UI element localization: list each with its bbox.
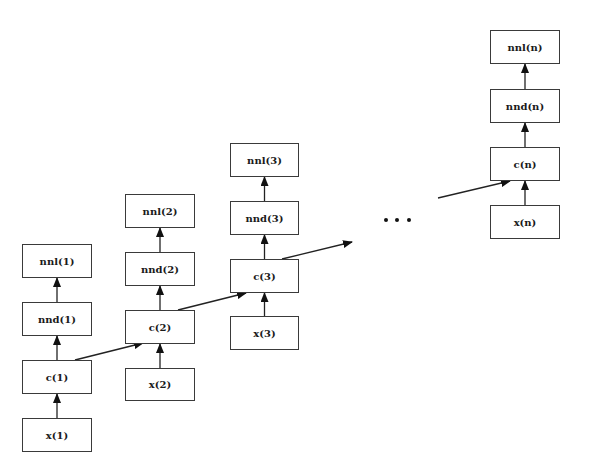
edge-arrow bbox=[282, 242, 352, 259]
node-label: c(n) bbox=[514, 159, 537, 170]
node-nnl-1: nnl(1) bbox=[22, 244, 92, 278]
node-c-3: c(3) bbox=[230, 259, 299, 293]
node-nnl-n: nnl(n) bbox=[490, 30, 560, 64]
node-nnl-2: nnl(2) bbox=[125, 194, 195, 228]
node-label: nnd(3) bbox=[246, 213, 284, 224]
node-c-1: c(1) bbox=[22, 360, 92, 394]
node-label: nnd(n) bbox=[506, 101, 544, 112]
ellipsis-dot bbox=[384, 218, 388, 222]
node-x-1: x(1) bbox=[22, 418, 92, 452]
node-label: nnl(3) bbox=[247, 155, 282, 166]
node-x-3: x(3) bbox=[230, 316, 299, 350]
node-label: c(1) bbox=[46, 372, 69, 383]
edge-arrow bbox=[75, 343, 143, 360]
node-nnd-n: nnd(n) bbox=[490, 89, 560, 123]
vertical-edges bbox=[57, 64, 525, 418]
node-nnl-3: nnl(3) bbox=[230, 143, 299, 177]
node-label: x(n) bbox=[514, 217, 537, 228]
node-nnd-1: nnd(1) bbox=[22, 302, 92, 336]
node-label: c(2) bbox=[149, 322, 172, 333]
node-label: nnl(2) bbox=[143, 206, 178, 217]
node-nnd-2: nnd(2) bbox=[125, 252, 195, 286]
node-label: x(2) bbox=[149, 379, 171, 390]
node-label: nnd(1) bbox=[38, 314, 76, 325]
edge-arrow bbox=[438, 181, 510, 198]
ellipsis-dot bbox=[395, 218, 399, 222]
node-label: x(3) bbox=[253, 328, 275, 339]
node-label: nnl(1) bbox=[40, 256, 75, 267]
ellipsis-dot bbox=[407, 218, 411, 222]
edge-arrow bbox=[178, 293, 246, 310]
node-c-n: c(n) bbox=[490, 147, 560, 181]
node-x-n: x(n) bbox=[490, 205, 560, 239]
node-label: nnl(n) bbox=[507, 42, 542, 53]
node-nnd-3: nnd(3) bbox=[230, 201, 299, 235]
node-label: c(3) bbox=[253, 271, 276, 282]
node-c-2: c(2) bbox=[125, 310, 195, 344]
unrolled-network-diagram: x(1) c(1) nnd(1) nnl(1) x(2) c(2) nnd(2)… bbox=[0, 0, 589, 471]
node-label: nnd(2) bbox=[141, 264, 179, 275]
node-x-2: x(2) bbox=[125, 368, 195, 401]
node-label: x(1) bbox=[46, 430, 68, 441]
